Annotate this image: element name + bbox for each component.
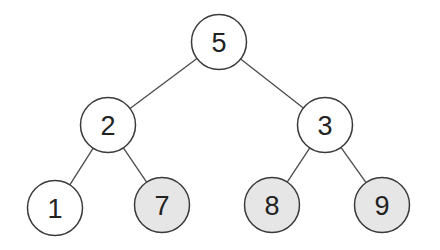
edge-2-7 [123, 148, 146, 182]
node-label: 1 [47, 194, 62, 224]
nodes-layer: 5231789 [28, 15, 410, 236]
node-label: 3 [317, 111, 332, 141]
node-label: 2 [100, 111, 115, 141]
tree-node-8: 8 [245, 178, 300, 233]
node-label: 8 [264, 191, 279, 221]
tree-node-2: 2 [81, 98, 136, 153]
edge-5-3 [241, 59, 304, 108]
edge-5-2 [130, 58, 197, 108]
binary-tree-diagram: 5231789 [0, 0, 440, 250]
node-label: 7 [154, 191, 169, 221]
node-label: 5 [211, 28, 226, 58]
tree-node-7: 7 [135, 178, 190, 233]
edge-2-1 [70, 148, 93, 185]
edge-3-9 [341, 147, 366, 182]
tree-node-5: 5 [192, 15, 247, 70]
node-label: 9 [374, 191, 389, 221]
edge-3-8 [287, 148, 310, 182]
tree-node-3: 3 [298, 98, 353, 153]
tree-node-9: 9 [355, 178, 410, 233]
tree-node-1: 1 [28, 181, 83, 236]
